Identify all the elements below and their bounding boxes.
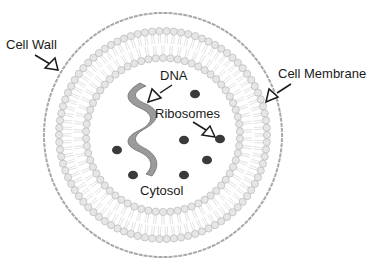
lipid-head bbox=[127, 230, 134, 237]
lipid-tail bbox=[86, 71, 93, 77]
cell-wall-segment bbox=[43, 133, 45, 137]
lipid-tail bbox=[66, 159, 74, 162]
cell-membrane-arrow bbox=[266, 84, 291, 102]
lipid-tail bbox=[147, 47, 148, 56]
lipid-head bbox=[124, 63, 131, 70]
cell-wall-segment bbox=[43, 128, 45, 132]
lipid-tail bbox=[145, 36, 146, 45]
ribosome bbox=[128, 171, 138, 180]
cell-wall-segment bbox=[244, 220, 248, 224]
lipid-head bbox=[120, 35, 127, 42]
lipid-tail bbox=[213, 212, 218, 219]
lipid-tail bbox=[76, 153, 85, 155]
lipid-head bbox=[55, 131, 62, 138]
lipid-tail bbox=[243, 140, 252, 141]
lipid-tail bbox=[225, 187, 232, 193]
lipid-tail bbox=[108, 212, 113, 219]
cell-wall-segment bbox=[115, 21, 119, 24]
cell-wall-segment bbox=[106, 241, 110, 245]
cell-wall-segment bbox=[59, 70, 63, 74]
cell-wall-segment bbox=[153, 12, 157, 14]
lipid-tail bbox=[240, 185, 248, 189]
cell-wall-segment bbox=[268, 187, 272, 191]
lipid-head bbox=[181, 205, 188, 212]
lipid-tail bbox=[190, 222, 193, 230]
cell-wall-segment bbox=[275, 168, 278, 172]
cell-wall-segment bbox=[168, 12, 172, 14]
cell-wall-segment bbox=[110, 23, 114, 27]
lipid-tail bbox=[160, 226, 161, 235]
lipid-tail bbox=[65, 115, 74, 117]
lipid-tail bbox=[120, 218, 124, 226]
cell-wall-segment bbox=[68, 57, 72, 61]
lipid-head bbox=[195, 200, 202, 207]
cell-wall-segment bbox=[62, 65, 66, 69]
lipid-head bbox=[263, 131, 270, 138]
cell-wall-segment bbox=[55, 79, 59, 83]
lipid-tail bbox=[121, 56, 125, 64]
lipid-tail bbox=[100, 206, 105, 213]
lipid-tail bbox=[108, 51, 113, 58]
lipid-tail bbox=[102, 55, 108, 62]
cell-wall-segment bbox=[270, 83, 273, 87]
lipid-head bbox=[59, 103, 66, 110]
cytosol-label: Cytosol bbox=[140, 183, 183, 198]
cell-wall-segment bbox=[139, 14, 143, 17]
lipid-tail bbox=[187, 212, 190, 220]
cell-wall-segment bbox=[220, 239, 224, 243]
lipid-tail bbox=[253, 153, 262, 155]
lipid-tail bbox=[178, 36, 180, 45]
cell-wall-segment bbox=[45, 107, 48, 111]
lipid-tail bbox=[106, 210, 111, 218]
lipid-tail bbox=[233, 175, 241, 179]
cell-wall-label: Cell Wall bbox=[6, 37, 57, 52]
lipid-tail bbox=[87, 195, 94, 200]
lipid-tail bbox=[65, 155, 74, 156]
cell-wall-segment bbox=[59, 196, 63, 200]
lipid-tail bbox=[228, 65, 235, 71]
cell-wall-segment bbox=[85, 39, 89, 43]
cell-wall-segment bbox=[93, 33, 97, 37]
lipid-tail bbox=[67, 161, 76, 163]
lipid-head bbox=[62, 96, 69, 103]
lipid-tail bbox=[74, 89, 82, 94]
cell-wall-segment bbox=[193, 16, 197, 19]
cell-wall-segment bbox=[216, 241, 220, 245]
cell-wall-segment bbox=[153, 256, 157, 258]
cell-wall-segment bbox=[278, 107, 281, 111]
lipid-head bbox=[152, 55, 159, 62]
dna-arrow bbox=[148, 85, 172, 102]
cell-wall-segment bbox=[68, 209, 72, 213]
cell-wall-segment bbox=[281, 133, 283, 137]
lipid-tail bbox=[91, 199, 98, 205]
cell-wall-segment bbox=[148, 255, 152, 257]
lipid-tail bbox=[225, 202, 231, 209]
lipid-tail bbox=[133, 39, 136, 47]
lipid-tail bbox=[96, 60, 102, 66]
lipid-tail bbox=[184, 37, 187, 46]
cell-wall-segment bbox=[43, 143, 45, 147]
cell-wall-segment bbox=[280, 123, 282, 127]
cell-wall-segment bbox=[48, 168, 51, 172]
lipid-tail bbox=[251, 161, 260, 163]
lipid-tail bbox=[95, 202, 101, 209]
lipid-tail bbox=[131, 222, 133, 231]
lipid-tail bbox=[251, 108, 259, 111]
lipid-head bbox=[201, 196, 208, 203]
lipid-head bbox=[124, 200, 131, 207]
lipid-head bbox=[145, 56, 152, 63]
lipid-tail bbox=[116, 59, 121, 67]
lipid-tail bbox=[252, 155, 261, 156]
lipid-tail bbox=[172, 46, 173, 55]
lipid-tail bbox=[228, 82, 235, 87]
lipid-tail bbox=[107, 198, 113, 205]
ribosome bbox=[179, 136, 189, 145]
lipid-tail bbox=[112, 214, 116, 222]
cell-wall-segment bbox=[163, 256, 167, 258]
cell-diagram: Cell Wall Cell Membrane DNA Ribosomes Cy… bbox=[0, 0, 380, 269]
lipid-tail bbox=[153, 215, 154, 224]
lipid-head bbox=[131, 203, 138, 210]
cell-wall-segment bbox=[260, 200, 264, 204]
lipid-tail bbox=[118, 217, 122, 225]
lipid-head bbox=[87, 106, 94, 113]
